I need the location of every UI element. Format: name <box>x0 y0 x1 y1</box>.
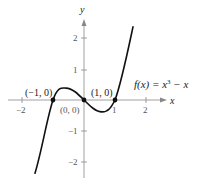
function-label-suffix: − x <box>171 78 189 90</box>
point-label-origin: (0, 0) <box>60 105 80 115</box>
function-label: f(x) = x3 − x <box>134 78 189 91</box>
point-label-neg1: (−1, 0) <box>25 87 52 99</box>
y-tick-label: −2 <box>68 157 78 167</box>
point-pos1 <box>113 98 118 103</box>
y-axis-arrow-icon <box>82 19 87 26</box>
x-tick-label: 2 <box>143 105 148 115</box>
x-axis-arrow-icon <box>160 98 167 103</box>
function-label-prefix: f(x) = x <box>134 78 167 91</box>
y-tick-label: 2 <box>73 33 78 43</box>
point-label-pos1: (1, 0) <box>91 87 113 99</box>
x-tick-label: 1 <box>112 105 117 115</box>
y-tick-label: 1 <box>73 65 78 75</box>
y-axis-label: y <box>79 4 85 15</box>
function-graph: x y −2 1 2 2 1 −1 −2 (−1, 0) (0, 0) (1, … <box>0 0 198 193</box>
point-neg1 <box>51 98 56 103</box>
x-tick-label: −2 <box>16 105 26 115</box>
y-tick-label: −1 <box>68 126 78 136</box>
x-axis-label: x <box>169 95 175 106</box>
point-origin <box>82 98 87 103</box>
